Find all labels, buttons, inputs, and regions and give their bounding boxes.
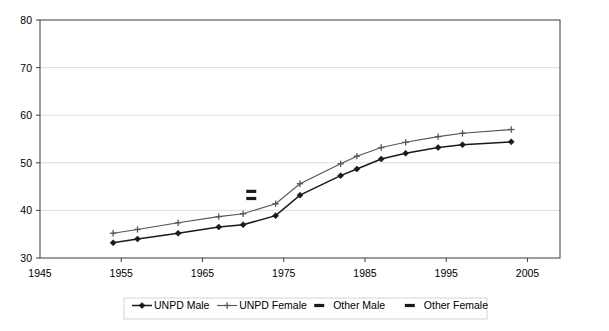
series-2-pt-0-dash-marker <box>246 197 256 200</box>
legend-label-2: Other Male <box>333 299 385 311</box>
x-axis-label-2005: 2005 <box>516 267 540 279</box>
line-chart: 304050607080 194519551965197519851995200… <box>0 0 609 331</box>
series-other-female <box>246 190 256 193</box>
legend-marker-2-dash-marker <box>314 304 324 307</box>
x-axis-label-1975: 1975 <box>272 267 296 279</box>
chart-container: 304050607080 194519551965197519851995200… <box>0 0 609 331</box>
y-axis-label-70: 70 <box>20 62 32 74</box>
legend-marker-3-dash-marker <box>405 304 415 307</box>
y-axis-label-60: 60 <box>20 109 32 121</box>
legend-label-1: UNPD Female <box>239 299 307 311</box>
x-axis-label-1945: 1945 <box>28 267 52 279</box>
x-axis-label-1995: 1995 <box>435 267 459 279</box>
legend-label-0: UNPD Male <box>154 299 210 311</box>
x-axis-label-1955: 1955 <box>110 267 134 279</box>
x-axis-label-1965: 1965 <box>191 267 215 279</box>
series-other-male <box>246 197 256 200</box>
y-axis-label-80: 80 <box>20 14 32 26</box>
chart-background <box>0 0 609 331</box>
y-axis-label-40: 40 <box>20 204 32 216</box>
series-3-pt-0-dash-marker <box>246 190 256 193</box>
legend-label-3: Other Female <box>424 299 488 311</box>
x-axis-label-1985: 1985 <box>353 267 377 279</box>
y-axis-label-50: 50 <box>20 157 32 169</box>
y-axis-label-30: 30 <box>20 252 32 264</box>
